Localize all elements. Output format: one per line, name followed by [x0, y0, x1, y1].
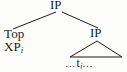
node-left-specifier-line2: XPi: [4, 40, 24, 55]
node-left-specifier-line1: Top: [4, 27, 24, 40]
node-left-specifier-base: XP: [4, 39, 21, 54]
node-right-ip: IP: [90, 26, 102, 39]
triangle-under-right-ip: [70, 41, 122, 57]
node-left-specifier-subscript: i: [21, 46, 23, 56]
node-root-ip: IP: [50, 0, 62, 11]
ellipsis-right: …: [82, 58, 93, 69]
ellipsis-left: …: [65, 58, 76, 69]
node-terminal-string: …ti…: [65, 57, 94, 71]
node-left-specifier: Top XPi: [4, 27, 24, 56]
syntax-tree-diagram: IP Top XPi IP …ti…: [0, 0, 127, 72]
